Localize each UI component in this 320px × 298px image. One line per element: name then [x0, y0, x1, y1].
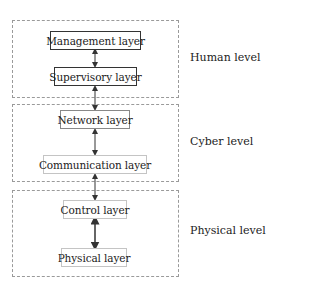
physical-level-label: Physical level: [190, 224, 266, 237]
human-level-label: Human level: [190, 51, 261, 64]
network-layer-box: Network layer: [60, 110, 130, 129]
physical-layer-box: Physical layer: [61, 248, 127, 267]
management-layer-box: Management layer: [50, 31, 141, 50]
control-layer-box: Control layer: [63, 200, 127, 219]
cyber-level-label: Cyber level: [190, 135, 253, 148]
communication-layer-box: Communication layer: [43, 155, 147, 174]
supervisory-layer-box: Supervisory layer: [54, 67, 137, 86]
